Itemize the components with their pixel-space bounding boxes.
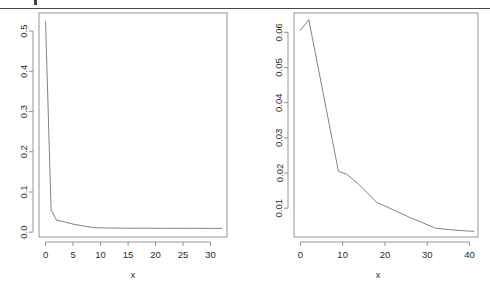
y-axis-tick-label: 0.05 [274, 58, 285, 77]
y-axis-tick-label: 0.1 [19, 185, 30, 198]
data-series-line [46, 22, 222, 229]
y-axis-tick-label: 0.3 [19, 105, 30, 118]
x-axis-tick-label: 15 [123, 249, 134, 260]
y-axis-tick-label: 0.2 [19, 145, 30, 158]
x-axis-tick-label: 30 [205, 249, 216, 260]
y-axis-tick-label: 0.04 [274, 93, 285, 112]
y-axis-tick-label: 0.0 [19, 226, 30, 239]
plot-frame [294, 13, 478, 237]
left-plot-svg: 0510152025300.00.10.20.30.40.5 [0, 0, 245, 298]
y-axis-tick-label: 0.02 [274, 164, 285, 183]
right-plot-figure: 0102030400.010.020.030.040.050.06 x [245, 0, 490, 298]
plot-frame [39, 13, 227, 237]
y-axis-tick-label: 0.06 [274, 23, 285, 42]
left-plot-xlabel: x [113, 270, 153, 280]
page-canvas: 0510152025300.00.10.20.30.40.5 x 0102030… [0, 0, 490, 298]
y-axis-tick-label: 0.03 [274, 129, 285, 148]
right-plot-xlabel: x [358, 270, 398, 280]
y-axis-tick-label: 0.5 [19, 24, 30, 37]
data-series-line [300, 20, 473, 232]
x-axis-tick-label: 20 [150, 249, 161, 260]
x-axis-tick-label: 10 [337, 249, 348, 260]
x-axis-tick-label: 40 [464, 249, 475, 260]
y-axis-tick-label: 0.01 [274, 199, 285, 218]
x-axis-tick-label: 0 [298, 249, 303, 260]
x-axis-tick-label: 20 [380, 249, 391, 260]
x-axis-tick-label: 0 [43, 249, 48, 260]
left-plot-figure: 0510152025300.00.10.20.30.40.5 x [0, 0, 245, 298]
x-axis-tick-label: 25 [178, 249, 189, 260]
x-axis-tick-label: 30 [422, 249, 433, 260]
x-axis-tick-label: 10 [95, 249, 106, 260]
x-axis-tick-label: 5 [70, 249, 75, 260]
right-plot-svg: 0102030400.010.020.030.040.050.06 [245, 0, 490, 298]
y-axis-tick-label: 0.4 [19, 65, 30, 78]
